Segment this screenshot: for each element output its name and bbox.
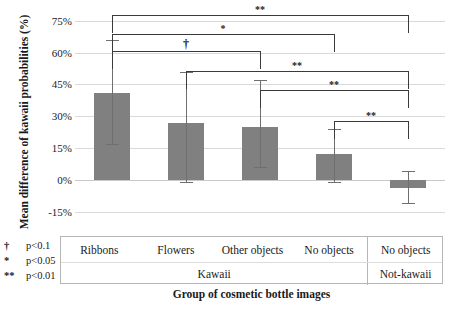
error-bar-cap-lower [328, 182, 341, 183]
significance-label: ** [329, 79, 339, 90]
x-axis-group-label: Kawaii [61, 262, 367, 285]
bracket-top [112, 15, 408, 16]
x-axis-category-label: No objects [367, 237, 444, 262]
error-bar-cap-lower [180, 182, 193, 183]
plot-area: ***†****** [75, 6, 445, 218]
table-divider-horizontal [61, 262, 442, 263]
legend-symbol: * [4, 255, 22, 266]
y-axis-tick: 75% [32, 15, 72, 27]
error-bar-cap-lower [254, 167, 267, 168]
error-bar-cap-upper [254, 80, 267, 81]
significance-legend: †p<0.1*p<0.05**p<0.01 [4, 240, 74, 285]
error-bar-cap-lower [106, 144, 119, 145]
bracket-right-tick [334, 34, 335, 52]
bracket-right-tick [408, 90, 409, 108]
significance-label: † [183, 39, 189, 50]
x-axis-title: Group of cosmetic bottle images [60, 288, 443, 300]
y-axis-tick: 45% [32, 78, 72, 90]
bracket-top [112, 34, 334, 35]
legend-item: *p<0.05 [4, 255, 74, 270]
error-bar-cap-lower [402, 203, 415, 204]
legend-text: p<0.01 [26, 270, 56, 281]
bracket-top [112, 51, 260, 52]
x-axis-group-row: KawaiiNot-kawaii [61, 262, 442, 285]
bracket-right-tick [408, 121, 409, 139]
bracket-top [334, 121, 408, 122]
significance-label: ** [255, 4, 265, 15]
x-axis-group-label: Not-kawaii [367, 262, 444, 285]
bracket-right-tick [408, 71, 409, 89]
bracket-right-tick [260, 51, 261, 69]
significance-label: * [221, 23, 226, 34]
significance-label: ** [292, 60, 302, 71]
bracket-top [186, 71, 408, 72]
y-axis-tick: -15% [32, 206, 72, 218]
x-axis-label-table: RibbonsFlowersOther objectsNo objectsNo … [60, 236, 443, 284]
x-axis-category-label: Flowers [138, 237, 215, 262]
legend-text: p<0.05 [26, 255, 56, 266]
gridline [75, 212, 445, 213]
bracket-left-tick [112, 15, 113, 33]
bracket-left-tick [334, 121, 335, 139]
bracket-left-tick [260, 90, 261, 108]
x-axis-category-label: Other objects [214, 237, 291, 262]
table-divider [367, 237, 368, 285]
legend-item: †p<0.1 [4, 240, 74, 255]
x-axis-category-label: No objects [291, 237, 368, 262]
gridline [75, 21, 445, 22]
legend-symbol: † [4, 240, 22, 251]
error-bar-cap-upper [402, 171, 415, 172]
x-axis-category-row: RibbonsFlowersOther objectsNo objectsNo … [61, 237, 442, 262]
y-axis-tick: 15% [32, 142, 72, 154]
bracket-right-tick [408, 15, 409, 33]
legend-item: **p<0.01 [4, 270, 74, 285]
significance-label: ** [366, 110, 376, 121]
bracket-top [260, 90, 408, 91]
legend-text: p<0.1 [26, 240, 50, 251]
bracket-left-tick [112, 34, 113, 52]
bracket-left-tick [186, 71, 187, 89]
y-axis-tick: 60% [32, 47, 72, 59]
y-axis-tick: 30% [32, 110, 72, 122]
bracket-left-tick [112, 51, 113, 69]
legend-symbol: ** [4, 270, 22, 281]
error-bar-line [408, 171, 409, 203]
y-axis-tick: 0% [32, 174, 72, 186]
chart-figure: Mean difference of kawaii probabilities … [0, 0, 457, 319]
y-axis-tick-labels: 75%60%45%30%15%0%-15% [28, 6, 72, 218]
